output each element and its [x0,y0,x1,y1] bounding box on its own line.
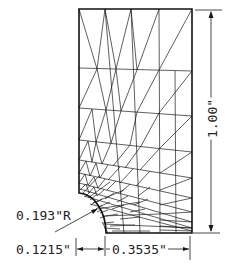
triangular-mesh [79,9,192,233]
mesh-svg [0,0,234,270]
mesh-diagram: 1.00" 0.193"R 0.1215" 0.3535" [0,0,234,270]
radius-label: 0.193"R [16,209,71,222]
left-width-label: 0.1215" [16,243,71,256]
height-label: 1.00" [206,98,219,140]
right-width-label: 0.3535" [112,243,167,256]
